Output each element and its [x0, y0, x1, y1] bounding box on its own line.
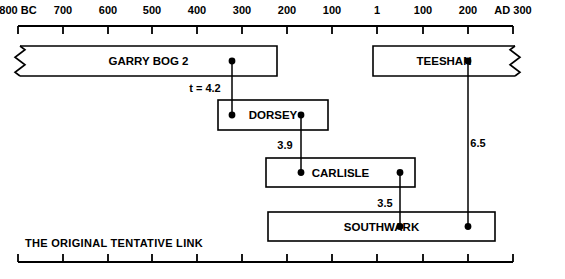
axis-tick-label: 200 — [278, 4, 296, 16]
match-point-dot — [229, 112, 236, 119]
match-point-dot — [465, 58, 472, 65]
bar-label: TEESHAN — [417, 55, 472, 67]
bottom-axis — [18, 254, 513, 262]
bar-label: SOUTHWARK — [344, 221, 420, 233]
bar-teeshan: TEESHAN — [373, 46, 520, 76]
link-teeshan-southwark: 6.5 — [468, 61, 486, 227]
axis-tick-label: 400 — [188, 4, 206, 16]
match-point-dot — [298, 112, 305, 119]
axis-tick-label: 100 — [414, 4, 432, 16]
top-axis: 800 BC7006005004003002001001100200AD 300 — [0, 4, 532, 34]
axis-tick-label: 100 — [323, 4, 341, 16]
sample-bars: GARRY BOG 2TEESHANDORSEYCARLISLESOUTHWAR… — [15, 46, 520, 241]
match-point-dot — [397, 223, 404, 230]
link-connectors: t = 4.23.93.56.5 — [189, 58, 485, 230]
bottom-axis-line — [18, 254, 513, 262]
axis-tick-label: 700 — [54, 4, 72, 16]
top-axis-tick-labels: 800 BC7006005004003002001001100200AD 300 — [0, 4, 532, 16]
dendrochronology-link-diagram: 800 BC7006005004003002001001100200AD 300… — [0, 0, 565, 279]
match-point-dot — [229, 58, 236, 65]
match-point-dot — [465, 223, 472, 230]
match-point-dot — [298, 169, 305, 176]
link-value-label: t = 4.2 — [189, 82, 221, 94]
bar-label: CARLISLE — [312, 167, 370, 179]
bar-garry-bog-2: GARRY BOG 2 — [15, 46, 277, 76]
bar-carlisle: CARLISLE — [266, 158, 415, 187]
axis-tick-label: 600 — [99, 4, 117, 16]
axis-tick-label: AD 300 — [494, 4, 531, 16]
axis-tick-label: 800 BC — [0, 4, 37, 16]
link-value-label: 6.5 — [470, 137, 485, 149]
figure-caption: THE ORIGINAL TENTATIVE LINK — [25, 237, 203, 249]
link-value-label: 3.9 — [277, 139, 292, 151]
top-axis-line — [18, 26, 513, 34]
link-value-label: 3.5 — [377, 197, 392, 209]
axis-tick-label: 300 — [233, 4, 251, 16]
match-point-dot — [397, 169, 404, 176]
axis-tick-label: 500 — [143, 4, 161, 16]
diagram-canvas: 800 BC7006005004003002001001100200AD 300… — [0, 0, 565, 279]
bar-label: GARRY BOG 2 — [109, 55, 189, 67]
axis-tick-label: 1 — [374, 4, 380, 16]
bar-label: DORSEY — [249, 109, 298, 121]
bar-southwark: SOUTHWARK — [268, 212, 495, 241]
axis-tick-label: 200 — [459, 4, 477, 16]
